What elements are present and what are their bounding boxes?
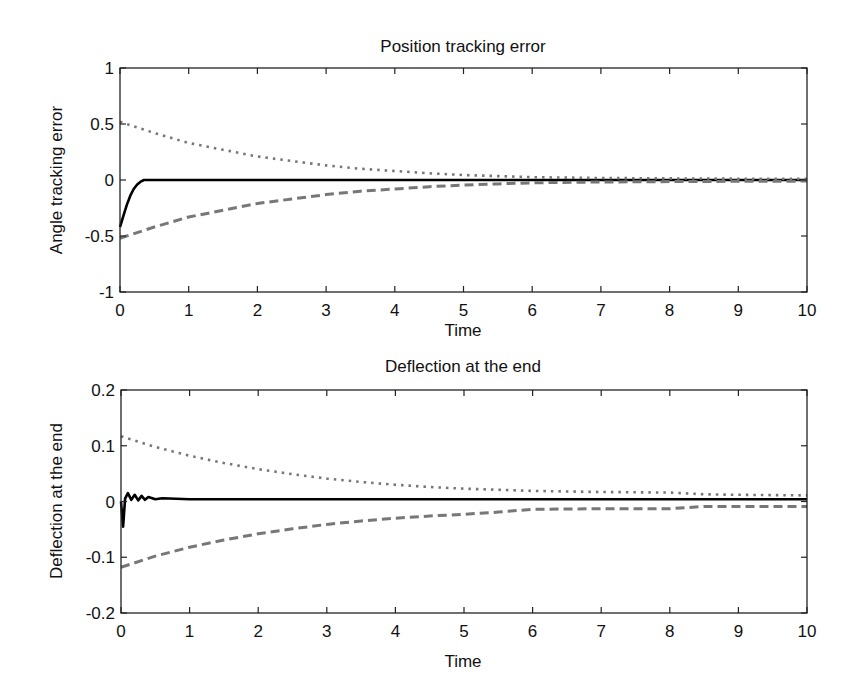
- y-tick-label: 0: [105, 171, 114, 190]
- subplot-position-tracking-error: Position tracking error 012345678910 10.…: [47, 37, 816, 340]
- y-tick-label: 0.2: [91, 381, 115, 400]
- x-tick-label: 5: [459, 301, 468, 320]
- x-tick-label: 4: [391, 622, 400, 641]
- series-lower-bound: [120, 181, 807, 238]
- x-axis-label: Time: [444, 652, 481, 671]
- y-tick-label: -0.5: [85, 227, 114, 246]
- chart-title: Position tracking error: [380, 37, 546, 56]
- chart-title: Deflection at the end: [385, 357, 541, 376]
- x-tick-label: 7: [596, 301, 605, 320]
- x-tick-label: 0: [116, 622, 125, 641]
- y-tick-label: 0: [106, 493, 115, 512]
- y-tick-label: -0.2: [86, 604, 115, 623]
- x-tick-label: 3: [322, 622, 331, 641]
- series-upper-bound: [121, 436, 807, 495]
- plot-frame: [121, 390, 807, 613]
- x-tick-label: 1: [185, 622, 194, 641]
- x-tick-label: 10: [798, 622, 817, 641]
- series-upper-bound: [120, 122, 807, 179]
- y-tick-label: -0.1: [86, 548, 115, 567]
- y-tick-label: 0.1: [91, 437, 115, 456]
- x-tick-label: 6: [528, 622, 537, 641]
- x-tick-label: 0: [115, 301, 124, 320]
- x-tick-label: 9: [734, 301, 743, 320]
- x-tick-label: 3: [321, 301, 330, 320]
- plot-lines: [120, 122, 807, 238]
- x-tick-label: 6: [527, 301, 536, 320]
- series-tracking-error: [120, 180, 807, 227]
- series-deflection: [121, 493, 807, 526]
- x-tick-label: 2: [253, 622, 262, 641]
- x-tick-label: 7: [596, 622, 605, 641]
- x-tick-label: 4: [390, 301, 399, 320]
- figure: Position tracking error 012345678910 10.…: [0, 0, 856, 697]
- x-tick-label: 1: [184, 301, 193, 320]
- x-tick-label: 9: [734, 622, 743, 641]
- x-ticks: 012345678910: [115, 68, 816, 320]
- x-axis-label: Time: [444, 321, 481, 340]
- x-tick-label: 10: [798, 301, 817, 320]
- y-tick-label: 0.5: [90, 115, 114, 134]
- y-ticks: 0.20.10-0.1-0.2: [86, 381, 807, 623]
- x-tick-label: 5: [459, 622, 468, 641]
- plot-lines: [121, 436, 807, 567]
- y-tick-label: 1: [105, 59, 114, 78]
- x-tick-label: 8: [665, 622, 674, 641]
- x-tick-label: 2: [253, 301, 262, 320]
- series-lower-bound: [121, 507, 807, 568]
- subplot-deflection-at-the-end: Deflection at the end 012345678910 0.20.…: [47, 357, 816, 671]
- y-tick-label: -1: [99, 283, 114, 302]
- y-axis-label: Angle tracking error: [47, 105, 66, 254]
- y-axis-label: Deflection at the end: [47, 423, 66, 579]
- x-tick-label: 8: [665, 301, 674, 320]
